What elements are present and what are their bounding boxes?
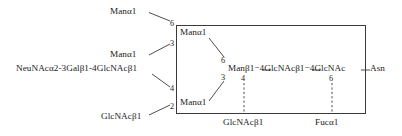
- label-core-fucose: Fucα1: [315, 118, 338, 127]
- linkage-position-core-fucose: 6: [329, 75, 333, 83]
- bond-outer-upper-mannose: [149, 13, 170, 22]
- label-sialyl-lactosamine-branch: NeuNAcα2-3Galβ1-4GlcNAcβ1: [16, 64, 137, 73]
- label-core-mannose-upper: Manα1: [180, 28, 207, 37]
- glycan-structure-figure: Manα1 Manα1 NeuNAcα2-3Galβ1-4GlcNAcβ1 Gl…: [0, 0, 402, 136]
- label-outer-mannose-lower: Manα1: [110, 50, 137, 59]
- bond-outer-lower-mannose: [149, 44, 170, 55]
- bond-core-upper-mannose: [209, 38, 224, 57]
- linkage-position-core-upper: 6: [221, 57, 225, 65]
- label-outer-mannose-upper: Manα1: [110, 7, 137, 16]
- linkage-position-bisecting-glcnac: 4: [241, 75, 245, 83]
- label-bisecting-glcnac-bottom: GlcNAcβ1: [223, 118, 263, 127]
- bond-bisecting-glcnac: [149, 105, 170, 115]
- linkage-position-core-lower: 3: [221, 74, 225, 82]
- label-core-mannose-lower: Manα1: [180, 98, 207, 107]
- label-bisecting-glcnac-branch: GlcNAcβ1: [101, 112, 141, 121]
- linkage-position-sialyl-branch: 4: [170, 85, 174, 93]
- bond-sialyl-branch: [152, 74, 170, 87]
- label-core-chain: Manβ1−4GlcNAcβ1−4GlcNAc: [228, 64, 345, 73]
- label-asparagine: Asn: [370, 64, 385, 73]
- bond-core-lower-mannose: [209, 81, 224, 101]
- linkage-position-outer-lower: 3: [170, 40, 174, 48]
- linkage-position-bisecting-branch: 2: [170, 103, 174, 111]
- linkage-position-outer-upper: 6: [170, 20, 174, 28]
